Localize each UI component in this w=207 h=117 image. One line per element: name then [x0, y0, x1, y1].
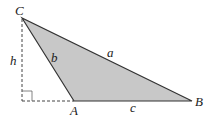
vertex-label-b: B	[195, 94, 203, 109]
side-label-c: c	[130, 100, 136, 115]
vertex-label-a: A	[69, 103, 78, 117]
vertex-label-c: C	[15, 3, 24, 18]
right-angle-marker	[22, 91, 32, 101]
side-label-a: a	[107, 45, 114, 60]
triangle-diagram: C A B h b a c	[0, 0, 207, 117]
altitude-label-h: h	[10, 53, 17, 68]
side-label-b: b	[51, 50, 58, 65]
